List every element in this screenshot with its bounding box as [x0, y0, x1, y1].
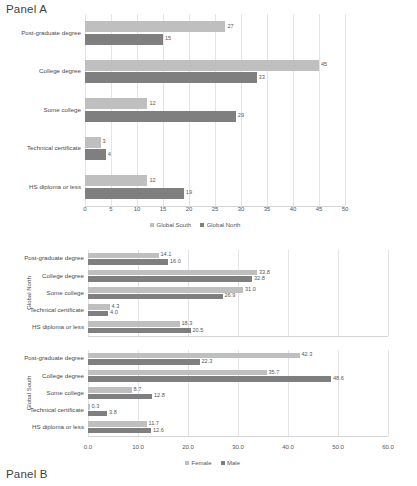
category-label: College degree [0, 68, 81, 74]
x-tick-label: 30.0 [226, 444, 250, 450]
panel-a-plot-area: Post-graduate degree2715College degree45… [85, 14, 345, 206]
x-tick-label: 15 [151, 206, 175, 212]
bar-value-label: 33 [259, 75, 265, 81]
bar-value-label: 42.3 [302, 352, 313, 358]
category-label: Post-graduate degree [0, 30, 81, 36]
gridline [388, 250, 389, 336]
bar-male [88, 359, 200, 365]
bar-global-south [85, 21, 225, 32]
category-label: HS diploma or less [6, 424, 84, 430]
axis-line [88, 436, 388, 437]
bar-value-label: 26.9 [225, 293, 236, 299]
bar-female [88, 353, 300, 359]
legend-item[interactable]: Global North [200, 222, 240, 228]
x-tick-label: 35 [255, 206, 279, 212]
gridline [293, 14, 294, 206]
bar-value-label: 0.3 [92, 404, 100, 410]
bar-value-label: 11.7 [149, 421, 159, 427]
bar-global-north [85, 34, 163, 45]
bar-male [88, 376, 331, 382]
x-tick-label: 10.0 [126, 444, 150, 450]
legend-swatch-icon [150, 223, 154, 227]
bar-value-label: 8.7 [134, 387, 142, 393]
category-label: Some college [6, 390, 84, 396]
chart-page: Panel A Post-graduate degree2715College … [0, 0, 417, 486]
bar-value-label: 45 [321, 62, 327, 68]
x-tick-label: 0.0 [76, 444, 100, 450]
panel-b-south-plot-area: Post-graduate degree42.322.3College degr… [88, 350, 388, 436]
gridline [388, 350, 389, 436]
panel-b-group-label-south: Global South [26, 350, 32, 436]
bar-male [88, 428, 151, 434]
category-label: Some college [6, 290, 84, 296]
bar-female [88, 304, 110, 310]
x-tick-label: 0 [73, 206, 97, 212]
bar-value-label: 16.0 [170, 259, 181, 265]
bar-female [88, 421, 147, 427]
panel-b: Panel B Post-graduate degree14.116.0Coll… [0, 232, 417, 486]
category-label: Some college [0, 107, 81, 113]
gridline [319, 14, 320, 206]
x-tick-label: 50 [333, 206, 357, 212]
x-tick-label: 30 [229, 206, 253, 212]
bar-value-label: 32.8 [254, 276, 265, 282]
bar-value-label: 3 [103, 139, 106, 145]
legend-label: Female [192, 460, 212, 466]
category-label: Technical certificate [0, 145, 81, 151]
bar-global-north [85, 149, 106, 160]
bar-value-label: 48.6 [333, 376, 344, 382]
gridline [241, 14, 242, 206]
gridline [338, 350, 339, 436]
category-label: HS diploma or less [0, 184, 81, 190]
bar-value-label: 12 [149, 101, 155, 107]
axis-line [88, 336, 388, 337]
bar-female [88, 370, 267, 376]
bar-global-south [85, 60, 319, 71]
x-tick-label: 25 [203, 206, 227, 212]
legend-item[interactable]: Male [221, 460, 241, 466]
bar-value-label: 19 [186, 190, 192, 196]
gridline [238, 250, 239, 336]
bar-male [88, 311, 108, 317]
legend-label: Global South [157, 222, 192, 228]
category-label: College degree [6, 273, 84, 279]
gridline [338, 250, 339, 336]
category-label: Post-graduate degree [6, 255, 84, 261]
bar-male [88, 259, 168, 265]
bar-value-label: 18.3 [182, 321, 193, 327]
panel-a-legend: Global SouthGlobal North [150, 222, 240, 228]
bar-female [88, 387, 132, 393]
x-tick-label: 20.0 [176, 444, 200, 450]
bar-value-label: 3.8 [109, 410, 117, 416]
legend-label: Global North [207, 222, 241, 228]
bar-value-label: 12.6 [153, 428, 164, 434]
bar-value-label: 35.7 [269, 370, 280, 376]
gridline [345, 14, 346, 206]
legend-label: Male [227, 460, 240, 466]
legend-item[interactable]: Female [185, 460, 212, 466]
x-tick-label: 10 [125, 206, 149, 212]
x-tick-label: 50.0 [326, 444, 350, 450]
bar-value-label: 12 [149, 178, 155, 184]
bar-global-north [85, 72, 257, 83]
gridline [238, 350, 239, 436]
bar-global-north [85, 111, 236, 122]
bar-value-label: 4.0 [110, 310, 118, 316]
bar-male [88, 411, 107, 417]
bar-value-label: 27 [227, 24, 233, 30]
bar-female [88, 287, 243, 293]
bar-value-label: 15 [165, 36, 171, 42]
x-tick-label: 40.0 [276, 444, 300, 450]
panel-a: Panel A Post-graduate degree2715College … [0, 0, 417, 232]
legend-swatch-icon [200, 223, 204, 227]
x-tick-label: 60.0 [376, 444, 400, 450]
bar-male [88, 328, 191, 334]
bar-female [88, 270, 257, 276]
bar-value-label: 29 [238, 113, 244, 119]
bar-male [88, 276, 252, 282]
category-label: College degree [6, 373, 84, 379]
bar-value-label: 31.0 [245, 287, 256, 293]
bar-female [88, 321, 180, 327]
legend-item[interactable]: Global South [150, 222, 191, 228]
gridline [288, 250, 289, 336]
